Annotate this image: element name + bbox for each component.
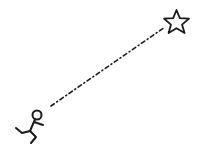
- illustration-canvas: [0, 0, 199, 154]
- running-person-icon: [16, 111, 43, 144]
- dashed-path: [51, 27, 165, 106]
- star-icon: [164, 10, 189, 33]
